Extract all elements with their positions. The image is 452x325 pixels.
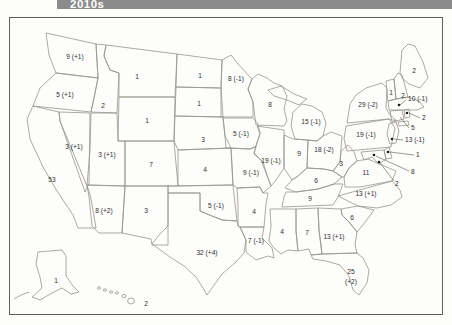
callout-label-rhode-island: 2 [422,114,426,121]
alaska-aleutian-islands [14,292,29,299]
callout-line-maryland [376,156,409,171]
state-label-california: 53 [48,176,56,183]
callout-dot-massachusetts [398,104,401,107]
state-label-mississippi: 4 [280,228,284,235]
state-label-new-hampshire: 2 [401,92,405,99]
state-label-kansas: 4 [203,166,207,173]
state-label-south-dakota: 1 [197,100,201,107]
state-label-virginia: 11 [363,169,370,176]
state-shape-michigan-upper [268,86,307,105]
callout-label-maryland: 8 [411,168,415,175]
state-shape-north-dakota [176,54,222,88]
state-label-west-virginia: 3 [339,160,343,167]
callout-label-delaware: 1 [416,151,420,158]
state-label-iowa: 5 (-1) [233,130,249,138]
state-label-new-mexico: 3 [144,207,148,214]
state-shapes [14,33,428,300]
state-shape-montana [104,45,177,97]
state-label-wisconsin: 8 [268,101,272,108]
callout-line-district-of-columbia [380,163,394,181]
callout-dot-new-jersey [391,138,394,141]
state-label-ohio: 18 (-2) [314,146,333,154]
callout-dot-rhode-island [406,112,409,115]
state-label-utah: 3 (+1) [98,151,115,159]
state-shape-illinois [254,126,284,186]
state-label-missouri: 9 (-1) [243,169,259,177]
callout-line-massachusetts [400,100,406,105]
callout-dot-maryland [373,154,376,157]
state-shape-new-mexico [122,186,168,245]
state-label-north-carolina: 13 (+1) [355,190,376,198]
callout-line-rhode-island [409,113,420,118]
state-label-florida: 25(+2) [345,268,357,286]
state-label-maine: 2 [412,67,416,74]
state-label-nevada: 3 (+1) [65,143,82,151]
state-label-north-dakota: 1 [198,72,202,79]
state-shape-wisconsin [248,74,287,126]
state-label-new-york: 29 (-2) [358,101,377,109]
state-label-vermont: 1 [389,89,393,96]
scanned-map-page: 2010s [0,0,452,325]
us-apportionment-map: 2010s [0,0,452,325]
state-shape-indiana [284,135,308,180]
state-label-indiana: 9 [297,150,301,157]
banner-bar [57,0,452,9]
callout-line-new-jersey [394,139,403,140]
state-shape-virginia [344,159,396,187]
callout-dot-delaware [387,151,390,154]
state-label-minnesota: 8 (-1) [228,75,244,83]
state-label-montana: 1 [135,73,139,80]
state-shape-west-virginia [333,145,357,177]
state-shape-utah [87,113,125,186]
state-shape-connecticut [390,110,404,122]
state-label-arizona: 8 (+2) [95,207,112,215]
state-label-oklahoma: 5 (-1) [208,202,224,210]
callout-dot-district-of-columbia [378,161,381,164]
state-label-colorado: 7 [149,161,153,168]
state-shape-maine [400,44,428,88]
state-label-tennessee: 9 [308,195,312,202]
state-shape-tennessee [282,184,343,207]
state-shape-nebraska [174,116,231,150]
title-banner: 2010s [57,0,452,10]
state-label-oregon: 5 (+1) [56,91,73,99]
state-label-arkansas: 4 [252,208,256,215]
state-label-wyoming: 1 [145,117,149,124]
hawaii-islands [97,287,134,304]
state-shape-minnesota [221,55,253,117]
page-title: 2010s [70,0,104,10]
state-label-pennsylvania: 19 (-1) [356,131,375,139]
state-label-kentucky: 6 [314,177,318,184]
state-shape-arkansas [237,187,268,227]
state-label-michigan: 15 (-1) [301,118,320,126]
state-label-alabama: 7 [305,229,309,236]
callout-label-connecticut: 5 [411,124,415,131]
state-label-idaho: 2 [101,102,105,109]
callout-label-massachusetts: 10 (-1) [408,95,427,103]
state-shape-oklahoma [168,185,237,221]
state-label-nebraska: 3 [201,136,205,143]
state-shape-maryland [361,150,386,164]
state-label-louisiana: 7 (-1) [248,237,264,245]
map-frame [10,18,443,315]
state-label-washington: 9 (+1) [66,53,83,61]
callout-line-connecticut [400,117,409,128]
callout-line-delaware [390,152,414,155]
state-label-alaska: 1 [54,277,58,284]
state-shape-florida [311,253,369,295]
state-label-hawaii: 2 [144,300,148,307]
callout-label-district-of-columbia: 2 [395,180,399,187]
state-label-south-carolina: 6 [350,214,354,221]
state-shape-idaho [91,44,119,113]
state-label-illinois: 19 (-1) [261,157,280,165]
state-label-georgia: 13 (+1) [323,233,344,241]
state-shape-texas [152,193,246,295]
state-label-texas: 32 (+4) [196,249,217,257]
callout-label-new-jersey: 13 (-1) [405,136,424,144]
state-shape-alabama [296,208,322,255]
state-shape-nevada [59,112,90,192]
state-shape-alaska [32,250,79,300]
